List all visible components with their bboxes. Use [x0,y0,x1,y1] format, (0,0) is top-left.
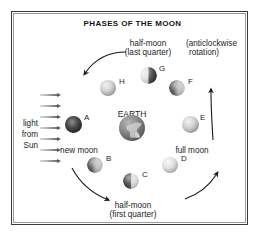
moon-sphere-g [140,67,157,84]
moon-sphere-h [100,80,116,96]
sun-ray-head [57,93,61,97]
sun-ray-arrow [40,126,62,130]
sun-ray-arrow [40,104,62,108]
sun-ray-arrow [40,115,62,119]
label-light-line2: from [22,130,38,140]
moon-sphere-b [87,157,103,173]
sun-ray-shaft [40,138,57,139]
sun-ray-arrow [40,159,62,163]
arrow-bottom-left [72,168,106,199]
moon-label-d: D [181,155,187,163]
sun-ray-shaft [40,127,57,128]
sun-ray-head [57,137,61,141]
moon-label-e: E [200,114,205,122]
label-rotation-line2: rotation) [189,48,219,58]
moon-label-f: F [188,78,193,86]
sun-ray-shaft [40,94,57,95]
sun-ray-arrow [40,93,62,97]
label-light-line1: light [23,119,38,129]
label-light-line3: Sun [23,141,38,151]
sun-ray-head [57,104,61,108]
moon-label-b: B [106,155,111,163]
sun-ray-shaft [40,160,57,161]
sun-ray-head [57,115,61,119]
moon-sphere-f [169,80,185,96]
sun-ray-shaft [40,105,57,106]
label-first-quarter-line2: (first quarter) [110,210,157,220]
sun-ray-arrow [40,137,62,141]
moon-sphere-d [162,157,178,173]
arrow-bottom-right [185,175,216,199]
moon-sphere-e [182,116,199,133]
moon-sphere-a [65,116,82,133]
label-new-moon: new moon [60,146,98,156]
sun-ray-head [57,159,61,163]
moon-label-c: C [142,171,148,179]
sun-ray-head [57,148,61,152]
moon-label-a: A [84,114,89,122]
moon-phases-figure: PHASES OF THE MOON half-moon (last quart… [0,0,265,244]
moon-label-h: H [119,78,125,86]
earth-sphere [119,115,145,141]
label-last-quarter-line2: (last quarter) [125,48,171,58]
sun-ray-head [57,126,61,130]
sun-ray-shaft [40,116,57,117]
sun-ray-arrow [40,148,62,152]
sun-ray-shaft [40,149,57,150]
moon-sphere-c [123,173,139,189]
moon-label-g: G [159,65,165,73]
arrow-top-left [86,52,126,72]
arrow-right [211,92,213,140]
